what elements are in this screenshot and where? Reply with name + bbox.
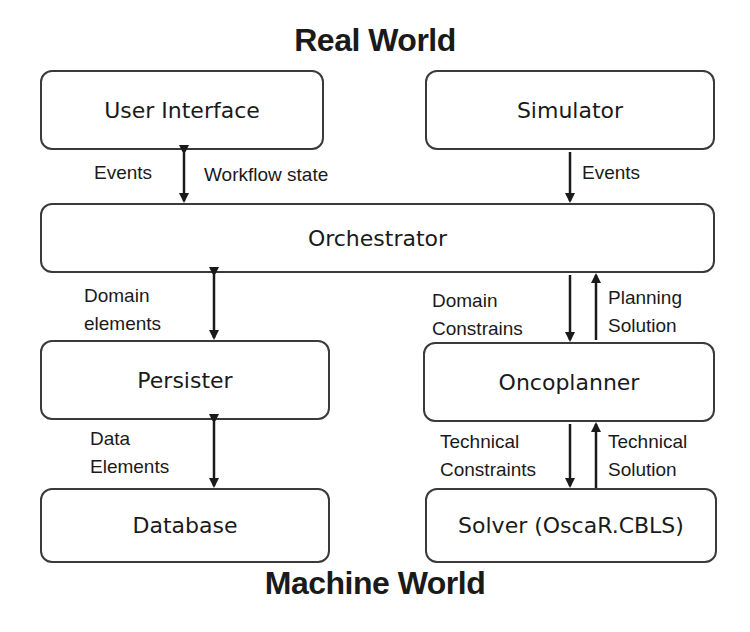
planning-solution-label-line1: Planning <box>608 284 682 312</box>
technical-constraints-label-line1: Technical <box>440 428 519 456</box>
ui-events-label: Events <box>94 159 152 187</box>
planning-solution-label-line2: Solution <box>608 312 677 340</box>
technical-solution-label-line2: Solution <box>608 456 677 484</box>
workflow-state-label: Workflow state <box>204 161 328 189</box>
data-elements-label-line2: Elements <box>90 453 169 481</box>
domain-elements-label-line2: elements <box>84 310 161 338</box>
domain-constrains-label-line2: Constrains <box>432 315 523 343</box>
technical-solution-label-line1: Technical <box>608 428 687 456</box>
simulator-events-label: Events <box>582 159 640 187</box>
domain-constrains-label-line1: Domain <box>432 287 497 315</box>
technical-constraints-label-line2: Constraints <box>440 456 536 484</box>
domain-elements-label-line1: Domain <box>84 282 149 310</box>
data-elements-label-line1: Data <box>90 425 130 453</box>
